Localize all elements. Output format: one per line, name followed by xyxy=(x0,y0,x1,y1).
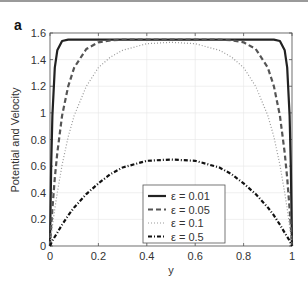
y-tick-label: 1.4 xyxy=(31,54,46,66)
legend-label-3: ε = 0.5 xyxy=(171,231,204,243)
y-tick-label: 0.2 xyxy=(31,213,46,225)
x-axis-label: y xyxy=(168,264,174,276)
y-axis-label: Potential and Velocity xyxy=(9,87,21,193)
legend-label-0: ε = 0.01 xyxy=(171,190,210,202)
x-tick-label: 0.4 xyxy=(139,250,154,262)
legend-label-2: ε = 0.1 xyxy=(171,217,204,229)
line-chart: 00.20.40.60.8100.20.40.60.811.21.41.6 y … xyxy=(0,0,308,282)
x-tick-label: 1 xyxy=(289,250,295,262)
legend: ε = 0.01ε = 0.05ε = 0.1ε = 0.5 xyxy=(143,185,225,243)
y-tick-label: 0.8 xyxy=(31,134,46,146)
x-tick-label: 0.6 xyxy=(188,250,203,262)
legend-label-1: ε = 0.05 xyxy=(171,204,210,216)
y-tick-label: 0 xyxy=(40,240,46,252)
y-tick-label: 1.6 xyxy=(31,27,46,39)
x-tick-label: 0.8 xyxy=(236,250,251,262)
x-tick-label: 0.2 xyxy=(91,250,106,262)
y-tick-label: 1.2 xyxy=(31,80,46,92)
x-tick-label: 0 xyxy=(47,250,53,262)
y-tick-label: 0.4 xyxy=(31,187,46,199)
y-tick-label: 0.6 xyxy=(31,160,46,172)
y-tick-label: 1 xyxy=(40,107,46,119)
